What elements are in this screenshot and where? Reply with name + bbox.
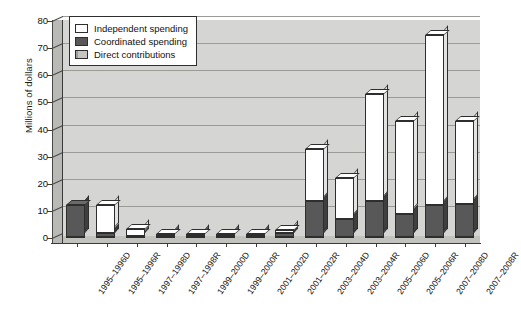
x-tick-mark bbox=[405, 243, 406, 247]
y-tick-label: 20 bbox=[12, 178, 48, 189]
x-tick-mark bbox=[346, 243, 347, 247]
bar-segment[interactable] bbox=[455, 121, 474, 204]
y-tick-label: 80 bbox=[12, 15, 48, 26]
bar-segment[interactable] bbox=[455, 204, 474, 237]
bar-segment[interactable] bbox=[365, 201, 384, 236]
bar-segment-side bbox=[414, 112, 418, 209]
x-tick-mark bbox=[286, 243, 287, 247]
x-tick-mark bbox=[167, 243, 168, 247]
x-tick-mark bbox=[107, 243, 108, 247]
legend-swatch-coord bbox=[75, 37, 88, 46]
bar-segment-side bbox=[444, 25, 448, 201]
bar-top-face bbox=[216, 229, 241, 234]
bar-column[interactable] bbox=[395, 15, 417, 238]
bar-segment[interactable] bbox=[365, 94, 384, 201]
y-tick-label: 70 bbox=[12, 42, 48, 53]
bar-segment[interactable] bbox=[96, 205, 115, 232]
legend-item[interactable]: Coordinated spending bbox=[75, 35, 188, 47]
bar-column[interactable] bbox=[455, 15, 477, 238]
legend-swatch-indep bbox=[75, 24, 88, 33]
y-tick-label: 50 bbox=[12, 96, 48, 107]
x-tick-mark bbox=[465, 243, 466, 247]
bar-segment[interactable] bbox=[305, 201, 324, 236]
legend-item[interactable]: Independent spending bbox=[75, 22, 188, 34]
bar-column[interactable] bbox=[335, 15, 357, 238]
bar-segment-side bbox=[384, 192, 388, 232]
bar-segment[interactable] bbox=[335, 219, 354, 237]
bar-segment[interactable] bbox=[395, 121, 414, 213]
bar-segment[interactable] bbox=[96, 233, 115, 237]
bar-column[interactable] bbox=[275, 15, 297, 238]
chart-legend: Independent spendingCoordinated spending… bbox=[69, 16, 197, 66]
bar-segment-side bbox=[384, 84, 388, 196]
legend-label: Direct contributions bbox=[94, 49, 175, 60]
x-tick-mark bbox=[435, 243, 436, 247]
bar-segment[interactable] bbox=[425, 205, 444, 236]
legend-label: Coordinated spending bbox=[94, 36, 187, 47]
x-axis-line bbox=[51, 243, 481, 244]
bar-top-face bbox=[246, 229, 271, 234]
legend-item[interactable]: Direct contributions bbox=[75, 48, 188, 60]
x-tick-mark bbox=[137, 243, 138, 247]
x-tick-mark bbox=[77, 243, 78, 247]
bar-column[interactable] bbox=[425, 15, 447, 238]
bar-segment[interactable] bbox=[275, 230, 294, 233]
x-tick-mark bbox=[226, 243, 227, 247]
bar-top-face bbox=[156, 229, 181, 234]
x-tick-mark bbox=[316, 243, 317, 247]
legend-label: Independent spending bbox=[94, 23, 188, 34]
bar-column[interactable] bbox=[246, 15, 268, 238]
bar-segment[interactable] bbox=[305, 149, 324, 202]
x-tick-mark bbox=[376, 243, 377, 247]
bar-segment-side bbox=[474, 112, 478, 199]
bar-segment[interactable] bbox=[275, 233, 294, 237]
x-tick-mark bbox=[256, 243, 257, 247]
y-tick-label: 60 bbox=[12, 69, 48, 80]
bar-segment[interactable] bbox=[66, 205, 85, 236]
bar-column[interactable] bbox=[365, 15, 387, 238]
bar-segment-side bbox=[324, 192, 328, 232]
y-tick-label: 30 bbox=[12, 151, 48, 162]
bar-column[interactable] bbox=[216, 15, 238, 238]
bar-column[interactable] bbox=[305, 15, 327, 238]
bar-segment[interactable] bbox=[425, 35, 444, 206]
bar-segment-side bbox=[414, 204, 418, 232]
legend-swatch-direct bbox=[75, 50, 88, 59]
y-tick-label: 40 bbox=[12, 124, 48, 135]
bar-segment[interactable] bbox=[335, 178, 354, 219]
bar-segment-side bbox=[474, 194, 478, 231]
bar-segment[interactable] bbox=[395, 214, 414, 237]
y-tick-label: 10 bbox=[12, 205, 48, 216]
y-tick-label: 0 bbox=[12, 232, 48, 243]
bar-segment[interactable] bbox=[126, 229, 145, 236]
bar-segment-side bbox=[444, 196, 448, 232]
x-tick-mark bbox=[196, 243, 197, 247]
bar-top-face bbox=[186, 229, 211, 234]
